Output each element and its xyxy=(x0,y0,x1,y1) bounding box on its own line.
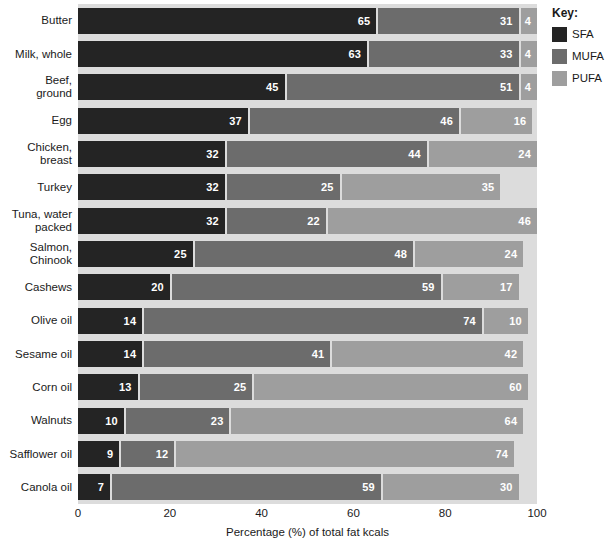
legend-title: Key: xyxy=(552,6,607,20)
bar-segment-mufa: 59 xyxy=(170,274,441,300)
bar-segment-value: 23 xyxy=(211,415,230,427)
bar-segment-mufa: 25 xyxy=(225,174,340,200)
bar-segment-value: 31 xyxy=(500,15,519,27)
stacked-bar: 322246 xyxy=(78,208,537,234)
bar-segment-value: 14 xyxy=(124,315,143,327)
bar-segment-value: 59 xyxy=(362,481,381,493)
x-axis-title: Percentage (%) of total fat kcals xyxy=(78,526,537,538)
legend-item-sfa: SFA xyxy=(552,24,607,44)
bar-row: 65314 xyxy=(78,8,537,34)
stacked-bar: 324424 xyxy=(78,141,537,167)
bar-row: 254824 xyxy=(78,241,537,267)
category-label: Egg xyxy=(0,114,72,127)
bar-segment-sfa: 25 xyxy=(78,241,193,267)
x-tick-label: 80 xyxy=(439,507,452,519)
bar-segment-mufa: 46 xyxy=(248,108,459,134)
bar-segment-pufa: 16 xyxy=(459,108,532,134)
bar-segment-value: 74 xyxy=(463,315,482,327)
stacked-bar: 374616 xyxy=(78,108,537,134)
bar-segment-value: 9 xyxy=(107,448,119,460)
bar-segment-sfa: 13 xyxy=(78,374,138,400)
bar-row: 322535 xyxy=(78,174,537,200)
bar-segment-pufa: 74 xyxy=(174,441,514,467)
category-label: Milk, whole xyxy=(0,48,72,61)
stacked-bar: 45514 xyxy=(78,74,537,100)
stacked-bar: 132560 xyxy=(78,374,537,400)
stacked-bar: 91274 xyxy=(78,441,537,467)
bar-segment-value: 32 xyxy=(206,148,225,160)
category-label: Sesame oil xyxy=(0,348,72,361)
legend-label: MUFA xyxy=(572,50,604,62)
bar-segment-mufa: 48 xyxy=(193,241,413,267)
bar-segment-sfa: 65 xyxy=(78,8,376,34)
bar-segment-value: 46 xyxy=(518,215,537,227)
legend: Key: SFAMUFAPUFA xyxy=(552,6,607,90)
bar-segment-pufa: 4 xyxy=(519,41,537,67)
bar-segment-value: 17 xyxy=(500,281,519,293)
bar-segment-value: 45 xyxy=(266,81,285,93)
bar-segment-mufa: 59 xyxy=(110,474,381,500)
bar-segment-sfa: 63 xyxy=(78,41,367,67)
x-tick-label: 0 xyxy=(75,507,81,519)
bar-segment-sfa: 32 xyxy=(78,208,225,234)
bar-segment-pufa: 4 xyxy=(519,74,537,100)
bar-segment-pufa: 60 xyxy=(252,374,527,400)
stacked-bar: 63334 xyxy=(78,41,537,67)
bar-segment-pufa: 42 xyxy=(330,341,523,367)
bar-segment-value: 25 xyxy=(321,181,340,193)
bar-row: 63334 xyxy=(78,41,537,67)
bar-segment-value: 33 xyxy=(500,48,519,60)
bar-segment-mufa: 31 xyxy=(376,8,518,34)
chart-figure: ButterMilk, wholeBeef, groundEggChicken,… xyxy=(0,0,607,548)
bar-segment-sfa: 37 xyxy=(78,108,248,134)
category-label: Turkey xyxy=(0,181,72,194)
x-axis-ticks: 020406080100 xyxy=(78,504,537,524)
bar-segment-pufa: 64 xyxy=(229,408,523,434)
bar-segment-mufa: 23 xyxy=(124,408,230,434)
bar-segment-value: 12 xyxy=(156,448,175,460)
bar-row: 91274 xyxy=(78,441,537,467)
bar-segment-value: 35 xyxy=(482,181,501,193)
bar-row: 45514 xyxy=(78,74,537,100)
bar-segment-value: 22 xyxy=(307,215,326,227)
legend-items: SFAMUFAPUFA xyxy=(552,24,607,88)
stacked-bar: 75930 xyxy=(78,474,537,500)
bar-segment-value: 10 xyxy=(105,415,124,427)
bar-segment-pufa: 17 xyxy=(441,274,519,300)
bar-row: 132560 xyxy=(78,374,537,400)
stacked-bar: 144142 xyxy=(78,341,537,367)
legend-label: SFA xyxy=(572,28,594,40)
bar-segment-value: 24 xyxy=(505,248,524,260)
bar-segment-value: 30 xyxy=(500,481,519,493)
category-label: Safflower oil xyxy=(0,448,72,461)
bar-segment-value: 37 xyxy=(229,115,248,127)
bar-segment-value: 16 xyxy=(514,115,533,127)
bar-segment-mufa: 12 xyxy=(119,441,174,467)
bar-segment-value: 59 xyxy=(422,281,441,293)
category-label: Beef, ground xyxy=(0,74,72,100)
stacked-bar: 254824 xyxy=(78,241,537,267)
category-label: Olive oil xyxy=(0,314,72,327)
category-label: Walnuts xyxy=(0,414,72,427)
bar-segment-value: 13 xyxy=(119,381,138,393)
bar-row: 102364 xyxy=(78,408,537,434)
bar-segment-value: 41 xyxy=(312,348,331,360)
stacked-bar: 65314 xyxy=(78,8,537,34)
legend-item-mufa: MUFA xyxy=(552,46,607,66)
stacked-bar: 102364 xyxy=(78,408,537,434)
stacked-bar: 322535 xyxy=(78,174,537,200)
bar-segment-value: 4 xyxy=(525,81,537,93)
category-axis: ButterMilk, wholeBeef, groundEggChicken,… xyxy=(0,4,72,504)
bar-segment-sfa: 45 xyxy=(78,74,285,100)
legend-swatch-icon xyxy=(552,49,567,64)
bar-segment-pufa: 10 xyxy=(482,308,528,334)
category-label: Tuna, water packed xyxy=(0,208,72,234)
bar-row: 144142 xyxy=(78,341,537,367)
bar-segment-value: 4 xyxy=(525,15,537,27)
legend-label: PUFA xyxy=(572,72,602,84)
stacked-bar: 205917 xyxy=(78,274,537,300)
bar-segment-sfa: 32 xyxy=(78,174,225,200)
bar-row: 324424 xyxy=(78,141,537,167)
bar-segment-value: 32 xyxy=(206,181,225,193)
bar-row: 322246 xyxy=(78,208,537,234)
